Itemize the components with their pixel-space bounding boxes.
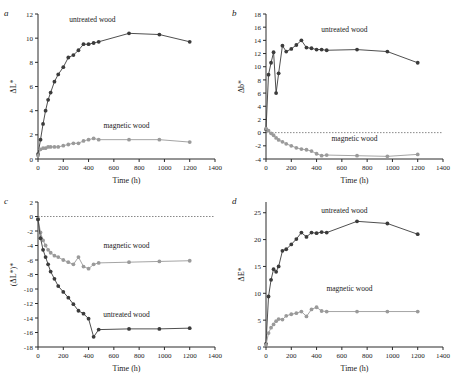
series-annotation: untreated wood [321, 206, 368, 215]
data-point [77, 141, 81, 145]
data-point [41, 248, 45, 252]
x-tick-label: 200 [58, 352, 69, 360]
data-point [87, 267, 91, 271]
data-point [77, 255, 81, 259]
y-tick-label: 12 [254, 50, 262, 58]
panel-c: c0200400600800100012001400-18-16-14-12-1… [0, 192, 225, 377]
panel-a: a0200400600800100012001400024681012untre… [0, 4, 225, 189]
data-point [188, 326, 192, 330]
data-point [267, 295, 271, 299]
data-point [289, 47, 293, 51]
x-tick-label: 0 [264, 164, 268, 172]
data-point [77, 48, 81, 52]
x-tick-label: 0 [264, 352, 268, 360]
data-point [157, 138, 161, 142]
x-tick-label: 200 [286, 164, 297, 172]
y-tick-label: 6 [30, 83, 34, 91]
y-tick-label: 16 [254, 24, 262, 32]
data-point [66, 143, 70, 147]
data-point [49, 91, 53, 95]
x-tick-label: 1000 [385, 352, 400, 360]
data-point [325, 48, 329, 52]
series-annotation: untreated wood [103, 310, 150, 319]
data-point [385, 154, 389, 158]
data-point [264, 343, 268, 347]
data-point [127, 31, 131, 35]
x-tick-label: 800 [362, 352, 373, 360]
x-tick-label: 1000 [157, 352, 172, 360]
data-point [300, 231, 304, 235]
data-point [305, 235, 309, 239]
x-tick-label: 800 [134, 352, 145, 360]
data-point [305, 46, 309, 50]
y-tick-label: 0 [258, 129, 262, 137]
data-point [320, 309, 324, 313]
x-tick-label: 600 [337, 164, 348, 172]
data-point [44, 255, 48, 259]
y-axis-title: ΔE* [237, 267, 246, 281]
data-point [277, 71, 281, 75]
data-point [72, 302, 76, 306]
data-point [355, 154, 359, 158]
data-point [320, 48, 324, 52]
y-tick-label: 5 [258, 317, 262, 325]
data-point [188, 140, 192, 144]
data-point [289, 144, 293, 148]
data-point [157, 33, 161, 37]
data-point [77, 309, 81, 313]
data-point [97, 328, 101, 332]
data-point [49, 270, 53, 274]
data-point [92, 262, 96, 266]
y-tick-label: 10 [26, 35, 34, 43]
data-point [97, 40, 101, 44]
data-point [188, 40, 192, 44]
y-tick-label: 2 [258, 116, 262, 124]
panel-letter-a: a [4, 8, 9, 18]
series-line-untreated-wood [266, 40, 418, 129]
data-point [269, 278, 273, 282]
y-tick-label: 18 [254, 11, 262, 19]
y-tick-label: 8 [258, 77, 262, 85]
data-point [127, 327, 131, 331]
y-tick-label: 8 [30, 59, 34, 67]
x-tick-label: 400 [311, 352, 322, 360]
data-point [92, 137, 96, 141]
data-point [300, 147, 304, 151]
data-point [385, 222, 389, 226]
data-point [82, 265, 86, 269]
x-tick-label: 1200 [411, 164, 426, 172]
series-annotation: magnetic wood [331, 134, 377, 143]
data-point [188, 259, 192, 263]
data-point [44, 244, 48, 248]
figure-root: a0200400600800100012001400024681012untre… [0, 0, 453, 381]
x-axis-title: Time (h) [341, 176, 369, 185]
data-point [72, 262, 76, 266]
y-tick-label: 4 [30, 107, 34, 115]
data-point [53, 254, 57, 258]
series-line-untreated-wood [38, 33, 190, 154]
x-tick-label: 800 [134, 164, 145, 172]
data-point [294, 43, 298, 47]
data-point [416, 232, 420, 236]
data-point [82, 312, 86, 316]
data-point [36, 153, 40, 157]
series-annotation: untreated wood [321, 25, 368, 34]
data-point [56, 284, 60, 288]
data-point [157, 327, 161, 331]
data-point [294, 146, 298, 150]
y-axis-title: (ΔL*)* [9, 263, 18, 286]
x-axis-title: Time (h) [341, 364, 369, 373]
y-tick-label: 0 [30, 156, 34, 164]
x-tick-label: 1200 [183, 352, 198, 360]
panel-letter-c: c [4, 196, 8, 206]
data-point [49, 251, 53, 255]
y-tick-label: 6 [258, 90, 262, 98]
data-point [87, 42, 91, 46]
y-tick-label: 20 [254, 236, 262, 244]
x-tick-label: 1400 [208, 164, 223, 172]
x-tick-label: 400 [83, 164, 94, 172]
y-tick-label: -16 [24, 329, 34, 337]
data-point [61, 144, 65, 148]
x-tick-label: 1200 [183, 164, 198, 172]
data-point [300, 310, 304, 314]
